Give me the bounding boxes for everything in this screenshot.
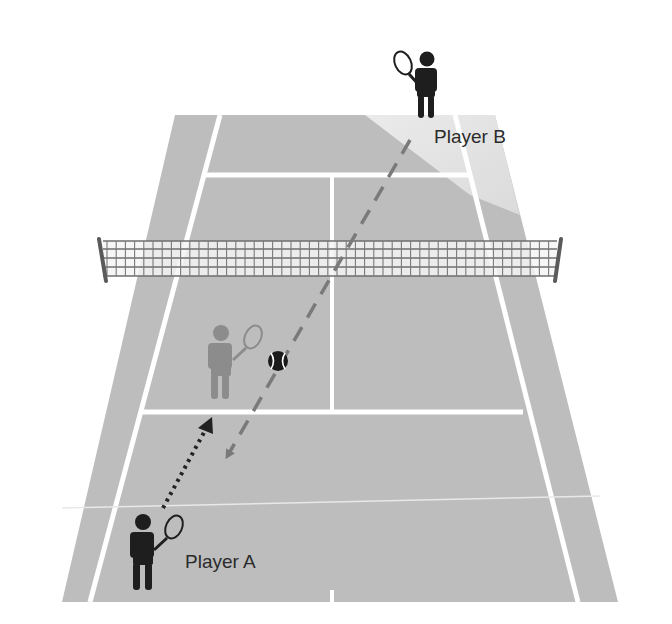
net xyxy=(103,241,557,276)
tennis-ball xyxy=(268,351,288,371)
player-b-label: Player B xyxy=(434,126,506,148)
player-b-icon xyxy=(391,49,437,118)
tennis-court-diagram xyxy=(0,0,672,624)
player-a-label: Player A xyxy=(185,551,256,573)
